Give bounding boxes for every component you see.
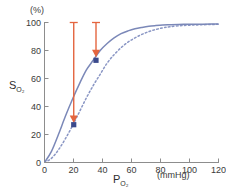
x-axis-title: PO₂ (113, 174, 129, 187)
arrow-low-po2-head (70, 116, 78, 124)
x-tick-0: 0 (42, 165, 47, 175)
annotation-layer (70, 23, 100, 128)
oxygen-dissociation-chart: 0 20 40 60 80 100 0 20 40 60 80 100 120 … (0, 0, 226, 195)
x-tick-20: 20 (68, 165, 78, 175)
x-tick-40: 40 (97, 165, 107, 175)
y-tick-0: 0 (36, 158, 41, 168)
y-tick-100: 100 (26, 18, 41, 28)
x-axis-title-subscript: O₂ (120, 180, 128, 187)
arrow-high-po2 (92, 23, 100, 63)
y-tick-labels: 0 20 40 60 80 100 (26, 18, 41, 168)
data-point-high (93, 58, 98, 63)
y-axis-title-subscript: O₂ (16, 86, 24, 93)
y-tick-marks (45, 23, 49, 163)
y-tick-80: 80 (31, 46, 41, 56)
series-right-shifted-curve (45, 24, 219, 162)
x-tick-marks (45, 159, 219, 163)
series-left-shifted-curve (45, 24, 219, 162)
arrow-low-po2 (70, 23, 78, 128)
y-tick-40: 40 (31, 102, 41, 112)
x-tick-labels: 0 20 40 60 80 100 120 (42, 165, 226, 175)
y-axis-unit-label: (%) (30, 6, 44, 15)
y-tick-20: 20 (31, 130, 41, 140)
y-axis-title: SO₂ (9, 80, 25, 93)
x-tick-120: 120 (211, 165, 226, 175)
data-point-low (71, 122, 76, 127)
x-axis-unit-label: (mmHg) (157, 171, 190, 180)
y-tick-60: 60 (31, 74, 41, 84)
chart-plot-area: 0 20 40 60 80 100 0 20 40 60 80 100 120 (0, 0, 226, 195)
